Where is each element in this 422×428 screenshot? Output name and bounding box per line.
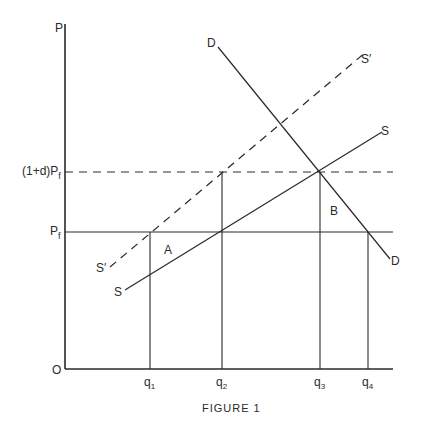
supply-curve (125, 132, 382, 290)
demand-curve (218, 47, 390, 259)
x-tick-q3: q3 (314, 375, 326, 391)
demand-label-start: D (207, 36, 216, 50)
shifted-supply-curve (110, 52, 366, 267)
figure-caption: FIGURE 1 (202, 402, 261, 414)
x-tick-q2: q2 (216, 375, 228, 391)
shifted-supply-label-start: S′ (96, 261, 107, 275)
y-axis-label: P (55, 21, 63, 35)
supply-demand-diagram: P O (1+d)Pf Pf q1 q2 q3 q4 S S S′ S′ D D… (0, 0, 422, 428)
shifted-supply-label-end: S′ (361, 52, 372, 66)
x-tick-q4: q4 (362, 375, 374, 391)
demand-label-end: D (391, 254, 400, 268)
y-tick-pf: Pf (50, 224, 61, 241)
region-a-label: A (164, 243, 172, 257)
y-tick-1plusd-pf: (1+d)Pf (22, 164, 61, 181)
supply-label-start: S (114, 285, 122, 299)
region-b-label: B (330, 204, 338, 218)
origin-label: O (52, 363, 61, 377)
supply-label-end: S (381, 124, 389, 138)
x-tick-q1: q1 (144, 375, 156, 391)
